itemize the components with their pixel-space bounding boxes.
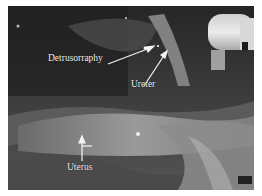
label-uterus: Uterus [67,162,92,172]
label-ureter: Ureter [131,79,155,89]
surgical-photo: Detrusorraphy Ureter Uterus [8,6,254,190]
label-detrusorraphy: Detrusorraphy [48,53,103,63]
photo-scene [8,6,254,190]
